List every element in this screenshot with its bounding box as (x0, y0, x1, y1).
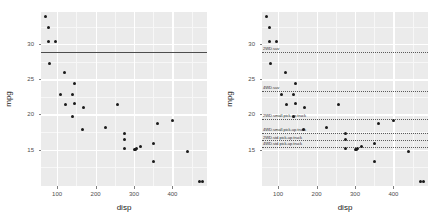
reference-line-solid (41, 52, 207, 53)
data-point (186, 150, 189, 153)
data-point (54, 40, 57, 43)
data-point (171, 119, 174, 122)
gridline-major-horizontal (41, 114, 207, 115)
reference-line-label: 2WD.small.pick-up.truck (263, 114, 306, 118)
reference-line-label: 4WD.suv (263, 86, 279, 90)
gridline-major-horizontal (262, 150, 428, 151)
right-panel-region: 2WD.suv4WD.suv2WD.small.pick-up.truck4WD… (262, 12, 428, 186)
gridline-major-vertical (317, 12, 318, 186)
gridline-major-vertical (57, 12, 58, 186)
gridline-minor-horizontal (41, 97, 207, 98)
x-tick-label: 100 (45, 191, 69, 197)
data-point (268, 40, 271, 43)
data-point (82, 106, 85, 109)
data-point (48, 62, 51, 65)
y-tick-mark (260, 114, 263, 115)
gridline-minor-horizontal (262, 167, 428, 168)
data-point (156, 122, 159, 125)
gridline-major-vertical (355, 12, 356, 186)
data-point (344, 132, 347, 135)
gridline-minor-horizontal (41, 27, 207, 28)
data-point (292, 93, 295, 96)
data-point (337, 103, 340, 106)
data-point (303, 106, 306, 109)
gridline-minor-vertical (336, 12, 337, 186)
y-tick-mark (39, 44, 42, 45)
data-point (344, 147, 347, 150)
data-point (280, 93, 283, 96)
data-point (81, 128, 84, 131)
x-tick-label: 300 (343, 191, 367, 197)
gridline-minor-vertical (413, 12, 414, 186)
data-point (47, 40, 50, 43)
data-point (422, 180, 425, 183)
data-point (284, 71, 287, 74)
x-tick-mark (134, 186, 135, 189)
gridline-minor-horizontal (262, 62, 428, 63)
gridline-major-vertical (96, 12, 97, 186)
gridline-major-horizontal (41, 44, 207, 45)
data-point (139, 145, 142, 148)
gridline-major-vertical (278, 12, 279, 186)
data-point (116, 103, 119, 106)
data-point (44, 15, 47, 18)
reference-line-label: 4WD.small.pick-up.truck (263, 128, 306, 132)
y-tick-mark (39, 114, 42, 115)
y-tick-label: 15 (16, 147, 34, 153)
data-point (356, 147, 359, 150)
y-tick-label: 25 (237, 76, 255, 82)
right-facet: 2WD.suv4WD.suv2WD.small.pick-up.truck4WD… (221, 0, 442, 221)
y-tick-mark (260, 79, 263, 80)
reference-line-label: 2WD.std.pick-up.truck (263, 136, 302, 140)
left-x-axis-title: disp (41, 204, 207, 212)
data-point (268, 26, 271, 29)
gridline-major-horizontal (262, 79, 428, 80)
x-tick-label: 300 (122, 191, 146, 197)
gridline-major-horizontal (41, 150, 207, 151)
data-point (71, 115, 74, 118)
x-tick-label: 400 (160, 191, 184, 197)
y-tick-mark (260, 150, 263, 151)
x-tick-label: 200 (305, 191, 329, 197)
reference-line-dotted (262, 91, 428, 92)
data-point (104, 126, 107, 129)
y-tick-label: 20 (16, 111, 34, 117)
gridline-minor-horizontal (262, 27, 428, 28)
data-point (123, 147, 126, 150)
data-point (265, 15, 268, 18)
gridline-minor-vertical (192, 12, 193, 186)
gridline-minor-horizontal (41, 167, 207, 168)
data-point (152, 142, 155, 145)
x-tick-mark (57, 186, 58, 189)
right-y-axis-title: mpg (226, 12, 234, 186)
data-point (407, 150, 410, 153)
data-point (373, 160, 376, 163)
plot-root: 15202530 100200300400 mpg disp 2WD.suv4W… (0, 0, 442, 221)
data-point (275, 40, 278, 43)
data-point (377, 122, 380, 125)
gridline-major-vertical (134, 12, 135, 186)
x-tick-label: 200 (84, 191, 108, 197)
data-point (71, 93, 74, 96)
y-tick-mark (260, 44, 263, 45)
reference-line-dotted (262, 52, 428, 53)
data-point (47, 26, 50, 29)
gridline-minor-horizontal (262, 97, 428, 98)
gridline-major-horizontal (41, 79, 207, 80)
gridline-major-horizontal (262, 44, 428, 45)
x-tick-mark (355, 186, 356, 189)
gridline-major-vertical (393, 12, 394, 186)
y-tick-label: 15 (237, 147, 255, 153)
reference-line-label: 4WD.std.pick-up.truck (263, 142, 302, 146)
data-point (135, 147, 138, 150)
x-tick-mark (172, 186, 173, 189)
data-point (392, 119, 395, 122)
data-point (285, 103, 288, 106)
x-tick-label: 400 (381, 191, 405, 197)
data-point (269, 62, 272, 65)
data-point (201, 180, 204, 183)
x-tick-label: 100 (266, 191, 290, 197)
data-point (123, 138, 126, 141)
data-point (123, 132, 126, 135)
reference-line-dotted (262, 119, 428, 120)
